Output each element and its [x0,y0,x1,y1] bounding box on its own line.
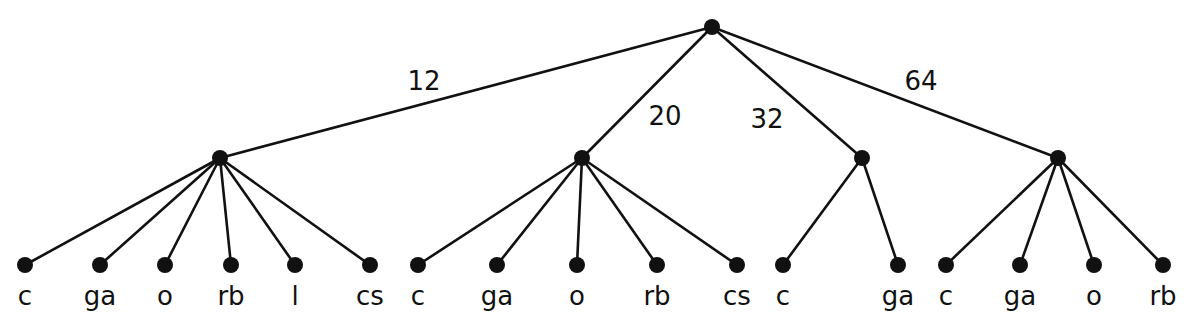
leaf-node [287,257,303,273]
child-edge [1058,158,1163,265]
leaf-node [890,257,906,273]
child-edge [497,158,582,265]
leaf-node [157,257,173,273]
internal-node [854,150,870,166]
leaf-node [410,257,426,273]
child-edge [418,158,582,265]
leaf-node [1012,257,1028,273]
edge-weight-label: 20 [648,101,681,131]
leaf-label: c [939,281,953,311]
edges-layer [25,27,1163,265]
edge-weight-label: 64 [904,66,937,96]
child-edge [783,158,862,265]
leaf-label: o [569,281,585,311]
leaf-label: cs [723,281,751,311]
internal-node [212,150,228,166]
child-edge [220,158,295,265]
child-edge [220,158,370,265]
root-node [704,19,720,35]
root-edge [582,27,712,158]
root-edge [712,27,1058,158]
child-edge [1020,158,1058,265]
leaf-label: ga [481,281,513,311]
leaf-label: c [411,281,425,311]
child-edge [1058,158,1094,265]
leaf-node [569,257,585,273]
child-edge [220,158,231,265]
child-edge [862,158,898,265]
child-edge [582,158,737,265]
leaf-label: rb [1149,281,1176,311]
leaf-label: c [776,281,790,311]
leaf-label: o [157,281,173,311]
leaf-node [1086,257,1102,273]
root-edge [712,27,862,158]
child-edge [582,158,657,265]
leaf-label: c [18,281,32,311]
tree-diagram: 12cgaorblcs20cgaorbcs32cga64cgaorb [0,0,1198,323]
leaf-node [92,257,108,273]
edge-weight-label: 32 [750,104,783,134]
child-edge [577,158,582,265]
root-edge [220,27,712,158]
leaf-node [489,257,505,273]
leaf-node [729,257,745,273]
leaf-label: rb [217,281,244,311]
leaf-node [1155,257,1171,273]
leaf-label: l [291,281,298,311]
leaf-label: cs [356,281,384,311]
child-edge [100,158,220,265]
leaf-label: ga [84,281,116,311]
child-edge [946,158,1058,265]
leaf-label: ga [1004,281,1036,311]
leaf-label: rb [643,281,670,311]
edge-weight-label: 12 [407,66,440,96]
internal-node [1050,150,1066,166]
leaf-node [362,257,378,273]
leaf-node [223,257,239,273]
leaf-label: ga [882,281,914,311]
leaf-label: o [1086,281,1102,311]
leaf-node [649,257,665,273]
labels-layer: 12cgaorblcs20cgaorbcs32cga64cgaorb [18,66,1177,311]
internal-node [574,150,590,166]
leaf-node [17,257,33,273]
leaf-node [938,257,954,273]
leaf-node [775,257,791,273]
child-edge [25,158,220,265]
